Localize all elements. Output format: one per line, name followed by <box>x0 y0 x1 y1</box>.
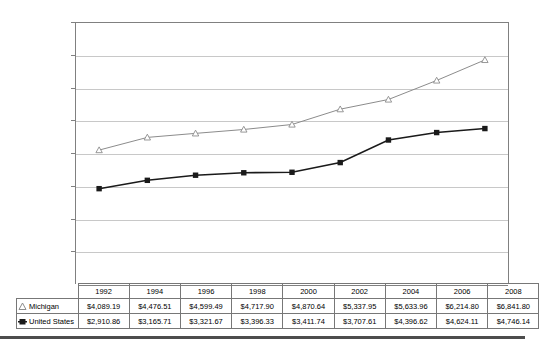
series-michigan <box>96 57 488 153</box>
table-header-year: 2006 <box>437 284 488 299</box>
table-row-united-states: United States $2,910.86$3,165.71$3,321.6… <box>17 314 539 329</box>
table-cell-value: $4,599.49 <box>180 299 231 314</box>
table-header-year: 2002 <box>334 284 385 299</box>
open-triangle-marker <box>433 77 439 83</box>
open-triangle-icon <box>18 302 27 311</box>
table-cell-value: $4,396.62 <box>385 314 436 329</box>
table-cell-value: $4,089.19 <box>78 299 129 314</box>
table-cell-value: $4,624.11 <box>437 314 488 329</box>
table-cell-value: $3,707.61 <box>334 314 385 329</box>
filled-square-marker <box>338 160 343 165</box>
data-table: 199219941996199820002002200420062008 Mic… <box>16 283 539 329</box>
table-header-year: 1996 <box>180 284 231 299</box>
filled-square-marker <box>289 170 294 175</box>
legend-label-united-states: United States <box>29 317 74 326</box>
table-cell-value: $5,337.95 <box>334 299 385 314</box>
table-header-year: 1992 <box>78 284 129 299</box>
table-cell-value: $6,214.80 <box>437 299 488 314</box>
plot-wrapper: $0$1,000$2,000$3,000$4,000$5,000$6,000$7… <box>75 22 509 284</box>
legend-item-united-states: United States <box>17 314 79 329</box>
table-cell-value: $4,476.51 <box>129 299 180 314</box>
filled-square-marker <box>386 137 391 142</box>
series-line <box>99 129 485 189</box>
table-cell-value: $3,396.33 <box>232 314 283 329</box>
table-cell-value: $6,841.80 <box>488 299 539 314</box>
table-header-year: 2004 <box>385 284 436 299</box>
table-header-year: 2008 <box>488 284 539 299</box>
table-cell-value: $3,165.71 <box>129 314 180 329</box>
series-line <box>99 60 485 150</box>
table-cell-value: $5,633.96 <box>385 299 436 314</box>
filled-square-marker <box>482 126 487 131</box>
table-cell-value: $3,321.67 <box>180 314 231 329</box>
table-header-year: 2000 <box>283 284 334 299</box>
filled-square-icon <box>18 317 27 326</box>
open-triangle-marker <box>385 96 391 102</box>
table-cell-value: $3,411.74 <box>283 314 334 329</box>
table-cell-value: $4,717.90 <box>232 299 283 314</box>
table-row-header: 199219941996199820002002200420062008 <box>17 284 539 299</box>
table-header-year: 1998 <box>232 284 283 299</box>
filled-square-marker <box>193 173 198 178</box>
table-corner <box>17 284 79 299</box>
series-united-states <box>96 126 487 192</box>
filled-square-marker <box>241 170 246 175</box>
table-cell-value: $4,870.64 <box>283 299 334 314</box>
filled-square-marker <box>434 130 439 135</box>
filled-square-marker <box>96 186 101 191</box>
table-cell-value: $2,910.86 <box>78 314 129 329</box>
legend-item-michigan: Michigan <box>17 299 79 314</box>
table-header-year: 1994 <box>129 284 180 299</box>
table-cell-value: $4,746.14 <box>488 314 539 329</box>
table-row-michigan: Michigan $4,089.19$4,476.51$4,599.49$4,7… <box>17 299 539 314</box>
series-layer <box>75 22 509 284</box>
legend-label-michigan: Michigan <box>29 302 59 311</box>
filled-square-marker <box>145 178 150 183</box>
open-triangle-marker <box>482 57 488 63</box>
